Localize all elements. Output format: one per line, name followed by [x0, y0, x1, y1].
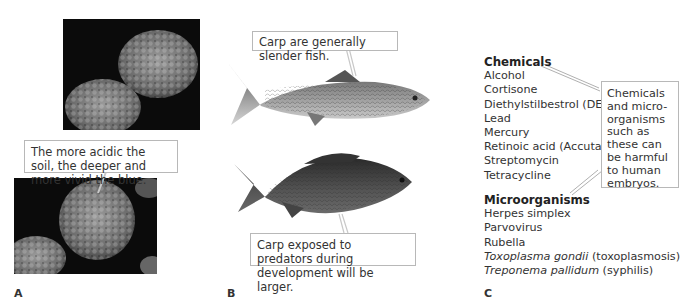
chemical-item: Mercury: [484, 126, 620, 140]
microorganism-item: Parvovirus: [484, 221, 680, 235]
chemical-item: Alcohol: [484, 69, 620, 83]
chemicals-heading: Chemicals: [484, 55, 620, 69]
callout-teratogens: Chemicals and micro-organisms such as th…: [601, 81, 679, 188]
microorganism-item: Toxoplasma gondii (toxoplasmosis): [484, 250, 680, 264]
disease-name: (syphilis): [599, 264, 653, 277]
microorganisms-heading: Microorganisms: [484, 193, 680, 207]
chemical-item: Lead: [484, 112, 620, 126]
chemical-item: Retinoic acid (Accutane): [484, 140, 620, 154]
chemical-item: Tetracycline: [484, 169, 620, 183]
microorganism-item: Rubella: [484, 236, 680, 250]
disease-name: (toxoplasmosis): [588, 250, 680, 263]
chemical-item: Cortisone: [484, 83, 620, 97]
panel-label-c: C: [484, 287, 492, 300]
microorganism-item: Treponema pallidum (syphilis): [484, 264, 680, 278]
chemical-item: Diethylstilbestrol (DES): [484, 98, 620, 112]
species-name: Toxoplasma gondii: [484, 250, 588, 263]
microorganisms-list: Microorganisms Herpes simplex Parvovirus…: [484, 193, 680, 278]
chemical-item: Streptomycin: [484, 154, 620, 168]
microorganism-item: Herpes simplex: [484, 207, 680, 221]
chemicals-list: Chemicals Alcohol Cortisone Diethylstilb…: [484, 55, 620, 183]
species-name: Treponema pallidum: [484, 264, 599, 277]
